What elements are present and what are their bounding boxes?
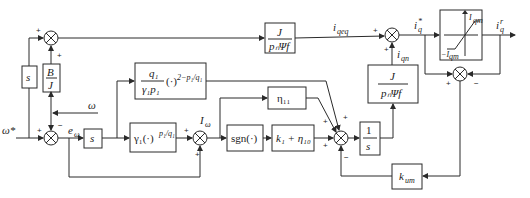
svg-text:γ₁(·): γ₁(·) — [133, 132, 154, 145]
block-integrator: 1 s — [360, 122, 380, 155]
svg-text:p₁/q₁: p₁/q₁ — [158, 129, 175, 138]
svg-text:−: − — [344, 153, 349, 162]
svg-text:ω: ω — [74, 130, 80, 139]
svg-text:+: + — [323, 117, 328, 126]
block-q-over-gamma-p: q₁ γ₁p₁ (·) 2−p₁/q₁ — [135, 63, 206, 99]
svg-text:+: + — [37, 126, 42, 135]
svg-text:(·): (·) — [166, 75, 177, 88]
block-saturation: I qm −I qm — [440, 10, 483, 61]
block-J-over-pn-psi-top: J pₙΨf — [265, 23, 295, 53]
svg-text:I: I — [468, 13, 472, 22]
svg-text:qn: qn — [401, 54, 409, 63]
svg-text:q₁: q₁ — [149, 67, 159, 79]
svg-text:η₁₁: η₁₁ — [277, 92, 291, 104]
svg-text:ω: ω — [88, 99, 96, 111]
label-omega: ω — [88, 99, 96, 111]
label-omega-ref: ω* — [2, 124, 16, 136]
svg-text:+: + — [184, 126, 189, 135]
label-I-omega: I ω — [199, 114, 211, 129]
sum-junction-I-omega — [193, 131, 207, 145]
svg-text:k₁ + η₁₀: k₁ + η₁₀ — [276, 132, 311, 144]
svg-text:q: q — [500, 25, 504, 34]
svg-text:s: s — [366, 140, 370, 152]
block-eta11: η₁₁ — [268, 87, 306, 109]
svg-text:+: + — [373, 26, 378, 35]
sum-junction-error — [44, 131, 58, 145]
label-i-qeq: i qeq — [333, 21, 349, 36]
svg-text:pₙΨf: pₙΨf — [268, 40, 291, 52]
svg-text:ω: ω — [205, 120, 211, 129]
svg-text:e: e — [68, 124, 73, 136]
label-i-q-r: i r q — [496, 17, 504, 34]
svg-text:i: i — [414, 19, 417, 31]
s-left-label: s — [26, 71, 30, 83]
svg-text:qm: qm — [449, 52, 459, 61]
svg-text:+: + — [36, 26, 41, 35]
svg-text:+: + — [446, 79, 451, 88]
svg-text:ω*: ω* — [2, 124, 16, 136]
svg-text:i: i — [496, 19, 499, 31]
label-e-omega: e ω — [68, 124, 80, 139]
svg-text:+: + — [57, 51, 62, 60]
svg-text:i: i — [397, 48, 400, 60]
svg-text:+: + — [323, 141, 328, 150]
svg-text:qm: qm — [473, 16, 483, 25]
svg-text:q: q — [418, 25, 422, 34]
block-sgn: sgn(·) — [227, 125, 263, 151]
svg-text:B: B — [47, 66, 54, 78]
svg-text:qeq: qeq — [337, 27, 349, 36]
block-s-left: s — [22, 66, 37, 88]
label-i-q-star: i * q — [414, 17, 422, 34]
sum-junction-saturation-diff — [453, 67, 467, 81]
block-J-over-pn-psi-right: J pₙΨf — [368, 65, 418, 103]
svg-text:i: i — [333, 21, 336, 33]
svg-text:um: um — [405, 176, 415, 185]
svg-text:−: − — [474, 79, 479, 88]
svg-text:1: 1 — [366, 124, 372, 136]
block-k1-eta10: k₁ + η₁₀ — [272, 125, 314, 151]
svg-text:sgn(·): sgn(·) — [231, 132, 258, 145]
svg-text:+: + — [195, 150, 200, 159]
svg-text:−: − — [58, 121, 63, 130]
block-gamma-power: γ₁(·) p₁/q₁ — [130, 123, 176, 152]
svg-text:γ₁p₁: γ₁p₁ — [142, 83, 160, 95]
svg-text:pₙΨf: pₙΨf — [380, 87, 403, 99]
block-k-um: k um — [392, 164, 422, 189]
svg-text:2−p₁/q₁: 2−p₁/q₁ — [177, 73, 202, 82]
control-block-diagram: s B J s γ₁(·) p₁/q₁ q₁ γ₁p₁ (·) 2−p₁/q₁ … — [0, 0, 530, 198]
svg-text:+: + — [343, 113, 348, 122]
block-B-over-J: B J — [43, 64, 60, 92]
sum-junction-integrator — [334, 131, 348, 145]
sum-junction-iq-star — [385, 28, 399, 42]
label-i-qn: i qn — [397, 48, 409, 63]
svg-text:+: + — [384, 45, 389, 54]
svg-text:s: s — [90, 132, 94, 144]
block-s-mid: s — [84, 129, 102, 148]
sum-junction-top-left — [44, 31, 58, 45]
